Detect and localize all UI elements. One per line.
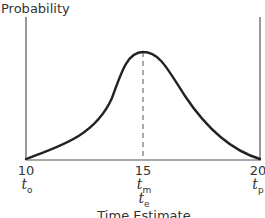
symbol-t-pessimistic: tp <box>252 176 263 195</box>
symbol-subscript: o <box>27 185 33 195</box>
x-axis-title: Time Estimate <box>97 208 190 218</box>
symbol-t-optimistic: to <box>21 176 32 195</box>
symbol-t-expected: te <box>138 190 149 209</box>
symbol-subscript: p <box>258 185 264 195</box>
chart-plot <box>0 0 265 218</box>
